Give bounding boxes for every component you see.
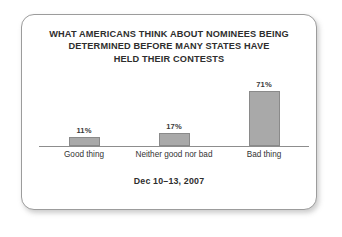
x-tick-label-good-thing: Good thing	[41, 149, 127, 160]
bar-series: 11% 17% 71%	[39, 65, 309, 146]
chart-title-line-3: HELD THEIR CONTESTS	[30, 53, 308, 65]
x-tick-label-neither-good-nor-bad: Neither good nor bad	[131, 149, 217, 160]
bar-group-neither-good-nor-bad: 17%	[131, 65, 217, 146]
chart-card: WHAT AMERICANS THINK ABOUT NOMINEES BEIN…	[21, 14, 317, 210]
chart-title: WHAT AMERICANS THINK ABOUT NOMINEES BEIN…	[30, 28, 308, 65]
bar-bad-thing	[249, 91, 280, 146]
bar-group-good-thing: 11%	[41, 65, 127, 146]
chart-footnote-date: Dec 10–13, 2007	[22, 176, 316, 186]
x-axis-line	[39, 146, 309, 147]
plot-area: 11% 17% 71% Good thing Neither good nor …	[22, 65, 316, 177]
bar-good-thing	[69, 137, 100, 146]
x-axis-tick-labels: Good thing Neither good nor bad Bad thin…	[39, 149, 309, 160]
chart-title-line-1: WHAT AMERICANS THINK ABOUT NOMINEES BEIN…	[30, 28, 308, 40]
chart-title-line-2: DETERMINED BEFORE MANY STATES HAVE	[30, 40, 308, 52]
bar-value-label: 17%	[166, 122, 182, 131]
bar-neither-good-nor-bad	[159, 133, 190, 146]
x-tick-label-bad-thing: Bad thing	[221, 149, 307, 160]
bar-value-label: 11%	[76, 126, 91, 135]
chart-figure: WHAT AMERICANS THINK ABOUT NOMINEES BEIN…	[0, 0, 342, 237]
bar-group-bad-thing: 71%	[221, 65, 307, 146]
bar-value-label: 71%	[256, 80, 272, 89]
